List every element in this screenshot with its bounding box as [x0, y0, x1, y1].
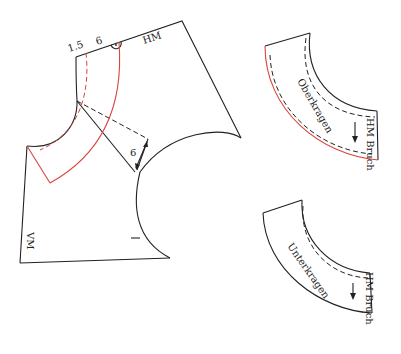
under-collar-label: Unterkragen — [285, 241, 332, 301]
collar-width-label: 6 — [94, 34, 103, 46]
collar-outline-red — [27, 42, 120, 183]
center-front-label: VM — [25, 231, 36, 249]
under-collar-fold-label: HM Bruch — [364, 272, 375, 325]
dart-measure-label: 6 — [130, 147, 136, 158]
seam-allowance-label: 1.5 — [66, 39, 85, 54]
upper-collar-piece — [265, 33, 378, 160]
pattern-diagram: 1.5 6 HM 6 VM Oberkragen HM Bruch Unterk… — [0, 0, 401, 354]
center-back-label: HM — [141, 30, 162, 46]
main-pattern-piece — [20, 21, 241, 263]
upper-collar-fold-label: HM Bruch — [365, 118, 376, 171]
under-collar-piece — [263, 200, 372, 313]
